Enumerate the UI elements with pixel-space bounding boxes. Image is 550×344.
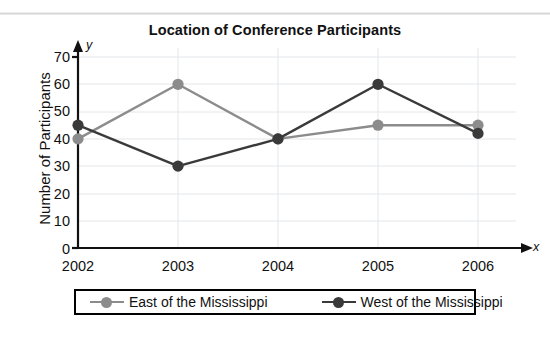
data-point[interactable] — [472, 128, 483, 139]
data-point[interactable] — [372, 79, 383, 90]
data-point[interactable] — [372, 120, 383, 131]
data-point[interactable] — [272, 133, 283, 144]
chart-legend: East of the Mississippi West of the Miss… — [74, 289, 476, 315]
legend-marker-east-icon — [90, 295, 124, 309]
legend-item-west[interactable]: West of the Mississippi — [322, 294, 503, 310]
data-point[interactable] — [72, 133, 83, 144]
legend-label-east: East of the Mississippi — [129, 294, 268, 310]
line-chart: Location of Conference Participants Numb… — [0, 0, 550, 344]
legend-item-east[interactable]: East of the Mississippi — [90, 294, 268, 310]
data-point[interactable] — [172, 79, 183, 90]
legend-marker-west-icon — [322, 295, 356, 309]
legend-label-west: West of the Mississippi — [361, 294, 503, 310]
data-point[interactable] — [72, 120, 83, 131]
data-point[interactable] — [172, 161, 183, 172]
gridlines — [78, 48, 516, 248]
